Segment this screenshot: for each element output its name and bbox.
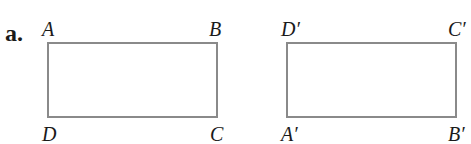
vertex-label-c-prime: C′ [448,19,466,39]
vertex-label-c: C [210,124,223,144]
part-label: a. [5,20,23,47]
vertex-label-a: A [42,19,54,39]
vertex-label-d-prime: D′ [281,19,300,39]
vertex-label-b: B [209,19,221,39]
vertex-label-d: D [42,124,56,144]
vertex-label-b-prime: B′ [448,124,465,144]
vertex-label-a-prime: A′ [281,124,298,144]
rectangle-abcd [47,42,218,118]
rectangle-image [286,42,457,118]
